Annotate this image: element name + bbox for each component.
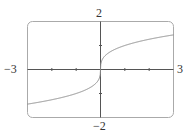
y-max-label: 2 bbox=[96, 7, 102, 19]
x-min-label: −3 bbox=[4, 63, 17, 75]
x-max-label: 3 bbox=[177, 63, 183, 75]
y-min-label: −2 bbox=[93, 120, 106, 132]
